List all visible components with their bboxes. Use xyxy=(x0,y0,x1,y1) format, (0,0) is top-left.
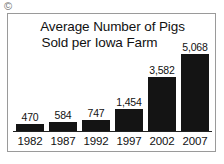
bar-column: 5,068 xyxy=(181,54,209,131)
bar xyxy=(16,124,44,131)
bar xyxy=(181,54,209,131)
bar-value-label: 5,068 xyxy=(182,42,207,53)
bar-value-label: 1,454 xyxy=(116,97,141,108)
bar xyxy=(115,109,143,131)
bar-value-label: 584 xyxy=(55,110,72,121)
chart-frame: Average Number of Pigs Sold per Iowa Far… xyxy=(7,13,216,152)
bar-column: 747 xyxy=(82,120,110,131)
bar-value-label: 747 xyxy=(88,108,105,119)
bar-value-label: 470 xyxy=(22,112,39,123)
plot-area: 4705847471,4543,5825,068 xyxy=(16,54,209,131)
copyright-mark-icon: © xyxy=(2,0,14,12)
bar-column: 470 xyxy=(16,124,44,131)
x-axis-tick-label: 1987 xyxy=(46,134,80,149)
chart-page: © Average Number of Pigs Sold per Iowa F… xyxy=(0,0,224,164)
bar xyxy=(148,77,176,131)
chart-title-line-1: Average Number of Pigs xyxy=(8,19,215,35)
chart-inner: Average Number of Pigs Sold per Iowa Far… xyxy=(8,14,215,151)
x-axis-tick-label: 2007 xyxy=(178,134,212,149)
x-axis-line xyxy=(13,131,212,132)
bar xyxy=(49,122,77,131)
bar-value-label: 3,582 xyxy=(149,65,174,76)
bar-column: 3,582 xyxy=(148,77,176,131)
x-axis-tick-label: 2002 xyxy=(145,134,179,149)
x-axis-tick-label: 1992 xyxy=(79,134,113,149)
bar-column: 584 xyxy=(49,122,77,131)
bar xyxy=(82,120,110,131)
x-axis-labels: 198219871992199720022007 xyxy=(16,134,209,150)
x-axis-tick-label: 1997 xyxy=(112,134,146,149)
bar-column: 1,454 xyxy=(115,109,143,131)
x-axis-tick-label: 1982 xyxy=(13,134,47,149)
